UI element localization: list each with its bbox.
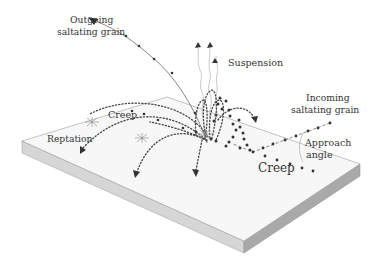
arrowhead-icon <box>251 116 258 123</box>
label-approach-line1: Approach <box>304 137 351 148</box>
label-outgoing-line2: saltating grain <box>57 26 125 37</box>
arrowhead-icon <box>212 58 218 63</box>
suspension-wisps <box>195 42 218 118</box>
label-creep-right: Creep <box>258 161 295 175</box>
label-reptation: Reptation <box>47 133 93 144</box>
ground-slab <box>22 97 360 253</box>
label-approach-line2: angle <box>306 149 333 160</box>
label-suspension: Suspension <box>228 57 283 68</box>
arrowhead-icon <box>207 42 213 48</box>
label-incoming-line1: Incoming <box>306 92 350 103</box>
arrowhead-icon <box>195 42 201 48</box>
label-outgoing-line1: Outgoing <box>70 14 113 25</box>
aeolian-transport-diagram: Outgoing saltating grain Suspension Inco… <box>0 0 377 262</box>
label-creep-left: Creep <box>108 109 137 120</box>
label-incoming-line2: saltating grain <box>291 104 359 115</box>
